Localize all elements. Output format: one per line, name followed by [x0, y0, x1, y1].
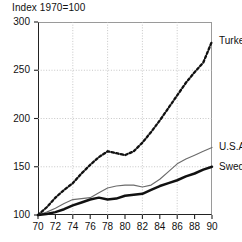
x-tick-84: 84 [152, 221, 168, 232]
x-tick-74: 74 [65, 221, 81, 232]
series-label-turkey: Turkey [219, 35, 242, 46]
chart-canvas [0, 0, 242, 242]
y-tick-150: 150 [4, 161, 30, 172]
x-tick-72: 72 [47, 221, 63, 232]
y-tick-250: 250 [4, 64, 30, 75]
series-label-sweden: Sweden [219, 161, 242, 172]
x-tick-88: 88 [187, 221, 203, 232]
x-tick-86: 86 [169, 221, 185, 232]
x-tick-78: 78 [100, 221, 116, 232]
series-label-usa: U.S.A. [219, 141, 242, 152]
x-tick-90: 90 [204, 221, 220, 232]
y-tick-300: 300 [4, 16, 30, 27]
chart-figure: Index 1970=100 A 100150200250300 7072747… [0, 0, 242, 242]
y-tick-200: 200 [4, 113, 30, 124]
x-tick-76: 76 [82, 221, 98, 232]
series-line-Turkey [38, 41, 212, 215]
y-tick-100: 100 [4, 209, 30, 220]
x-tick-70: 70 [30, 221, 46, 232]
x-tick-80: 80 [117, 221, 133, 232]
x-tick-82: 82 [134, 221, 150, 232]
series-line-U.S.A. [38, 147, 212, 215]
